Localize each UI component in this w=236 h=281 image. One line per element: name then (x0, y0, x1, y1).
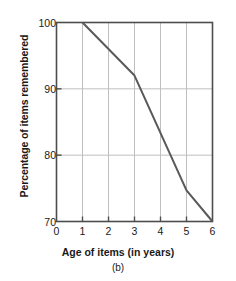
y-tick-label-90: 90 (30, 84, 56, 94)
figure-subcaption: (b) (0, 262, 236, 273)
x-tick-label-2: 2 (101, 226, 117, 237)
x-tick-label-1: 1 (75, 226, 91, 237)
vertical-gridlines (83, 23, 187, 222)
x-tick-label-5: 5 (179, 226, 195, 237)
x-tick-label-3: 3 (127, 226, 143, 237)
y-tick-label-100: 100 (30, 18, 56, 28)
chart-figure: Percentage of items remembered 708090100… (0, 0, 236, 281)
data-series-line (83, 23, 213, 222)
chart-plot-area (0, 0, 236, 281)
y-axis-label: Percentage of items remembered (18, 6, 30, 226)
y-tick-label-80: 80 (30, 150, 56, 160)
x-tick-label-4: 4 (153, 226, 169, 237)
x-tick-label-6: 6 (205, 226, 221, 237)
x-tick-label-0: 0 (49, 226, 65, 237)
y-tick-label-70: 70 (30, 217, 56, 227)
x-axis-label: Age of items (in years) (0, 246, 236, 258)
